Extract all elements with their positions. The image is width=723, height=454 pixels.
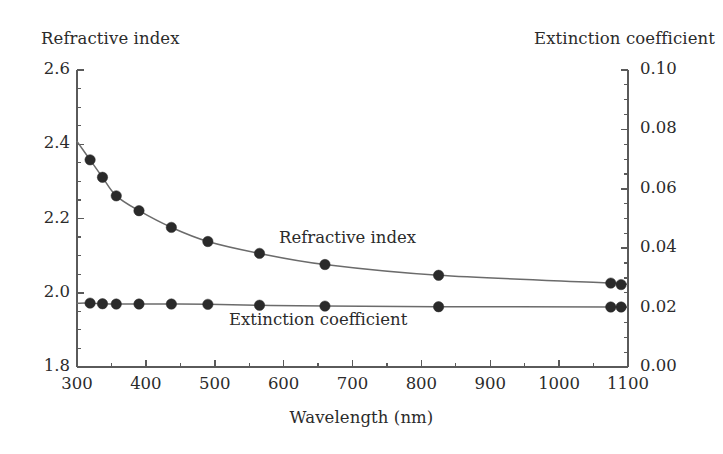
data-point-marker	[97, 172, 107, 182]
right-axis-title: Extinction coefficient	[534, 29, 715, 48]
figure-container: Refractive index Extinction coefficient …	[0, 0, 723, 454]
data-point-marker	[166, 299, 176, 309]
series-annotation-refractive-index: Refractive index	[279, 228, 416, 247]
data-point-marker	[606, 278, 616, 288]
y-axis-right-tick-label: 0.10	[640, 59, 677, 78]
data-point-marker	[616, 302, 626, 312]
data-point-marker	[85, 298, 95, 308]
x-axis-tick-label: 1100	[598, 374, 658, 393]
data-point-marker	[203, 236, 213, 246]
data-point-marker	[606, 302, 616, 312]
y-axis-right-tick-label: 0.02	[640, 297, 677, 316]
left-axis-title: Refractive index	[41, 29, 180, 48]
data-point-marker	[254, 300, 264, 310]
y-axis-left-tick-label: 2.4	[26, 133, 70, 152]
data-point-marker	[203, 299, 213, 309]
y-axis-right-tick-label: 0.00	[640, 356, 677, 375]
x-axis-tick-label: 500	[185, 374, 245, 393]
y-axis-left-tick-label: 2.0	[26, 282, 70, 301]
data-point-marker	[433, 302, 443, 312]
x-axis-tick-label: 300	[47, 374, 107, 393]
y-axis-right-tick-label: 0.04	[640, 237, 677, 256]
x-axis-tick-label: 600	[254, 374, 314, 393]
data-point-marker	[254, 248, 264, 258]
data-point-marker	[85, 155, 95, 165]
x-axis-tick-label: 1000	[529, 374, 589, 393]
data-point-marker	[111, 299, 121, 309]
series-line-1	[77, 141, 627, 284]
y-axis-right-tick-label: 0.06	[640, 178, 677, 197]
x-axis-tick-label: 400	[116, 374, 176, 393]
x-axis-tick-label: 900	[460, 374, 520, 393]
series-line-2	[77, 303, 628, 307]
data-point-marker	[616, 279, 626, 289]
data-point-marker	[320, 259, 330, 269]
data-point-marker	[134, 299, 144, 309]
data-point-marker	[433, 270, 443, 280]
data-point-marker	[97, 299, 107, 309]
data-point-marker	[134, 206, 144, 216]
series-annotation-extinction-coefficient: Extinction coefficient	[229, 310, 407, 329]
x-axis-title: Wavelength (nm)	[0, 408, 723, 427]
y-axis-left-tick-label: 1.8	[26, 356, 70, 375]
series-group	[77, 141, 628, 312]
x-axis-tick-label: 700	[323, 374, 383, 393]
x-axis-tick-label: 800	[391, 374, 451, 393]
data-point-marker	[111, 191, 121, 201]
y-axis-left-tick-label: 2.2	[26, 208, 70, 227]
data-point-marker	[166, 222, 176, 232]
y-axis-left-tick-label: 2.6	[26, 59, 70, 78]
y-axis-right-tick-label: 0.08	[640, 118, 677, 137]
